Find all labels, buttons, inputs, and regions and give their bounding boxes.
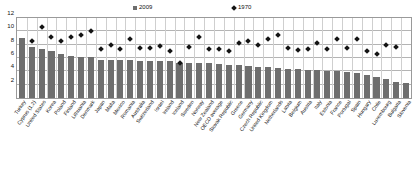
data-point-marker	[29, 39, 35, 45]
x-axis: TurkeyCyprus (1,2)United StatesKoreaPola…	[16, 99, 412, 174]
legend-entry-1970: 1970	[232, 4, 251, 11]
data-point-marker	[334, 37, 340, 43]
data-point-marker	[216, 47, 222, 53]
data-point-marker	[315, 40, 321, 46]
data-point-marker	[127, 37, 133, 43]
data-point-marker	[305, 47, 311, 53]
data-point-marker	[78, 32, 84, 38]
data-point-marker	[68, 35, 74, 41]
legend-label-1970: 1970	[238, 4, 251, 11]
y-axis-tick-label: 4	[11, 63, 14, 69]
data-point-marker	[295, 47, 301, 53]
data-point-marker	[196, 35, 202, 41]
data-point-marker	[393, 44, 399, 50]
y-axis-tick-label: 10	[7, 23, 14, 29]
data-point-marker	[157, 43, 163, 49]
data-point-marker	[118, 47, 124, 53]
legend-entry-2009: 2009	[133, 4, 152, 11]
data-point-marker	[167, 49, 173, 55]
data-point-marker	[265, 36, 271, 42]
data-point-marker	[324, 47, 330, 53]
y-axis-tick-label: 6	[11, 50, 14, 56]
legend-square-icon	[133, 6, 137, 10]
data-point-marker	[58, 38, 64, 44]
data-point-marker	[88, 29, 94, 35]
data-point-marker	[246, 39, 252, 45]
legend-diamond-icon	[231, 5, 237, 11]
data-point-marker	[187, 45, 193, 51]
data-point-marker	[206, 46, 212, 52]
data-point-marker	[354, 37, 360, 43]
data-point-marker	[39, 25, 45, 31]
data-point-marker	[49, 34, 55, 40]
data-point-marker	[137, 45, 143, 51]
y-axis: 24681012	[0, 17, 16, 99]
data-point-marker	[285, 45, 291, 51]
markers-layer	[17, 18, 411, 98]
population-growth-chart: 2009 1970 24681012 TurkeyCyprus (1,2)Uni…	[0, 0, 416, 174]
data-point-marker	[108, 43, 114, 49]
y-axis-tick-label: 2	[11, 77, 14, 83]
data-point-marker	[384, 43, 390, 49]
data-point-marker	[98, 46, 104, 52]
data-point-marker	[255, 43, 261, 49]
data-point-marker	[344, 45, 350, 51]
y-axis-tick-label: 8	[11, 37, 14, 43]
data-point-marker	[275, 33, 281, 39]
chart-legend: 2009 1970	[0, 1, 416, 15]
legend-label-2009: 2009	[139, 4, 152, 11]
data-point-marker	[374, 51, 380, 57]
data-point-marker	[177, 60, 183, 66]
data-point-marker	[236, 41, 242, 47]
y-axis-tick-label: 12	[7, 10, 14, 16]
data-point-marker	[226, 49, 232, 55]
data-point-marker	[364, 49, 370, 55]
data-point-marker	[147, 45, 153, 51]
